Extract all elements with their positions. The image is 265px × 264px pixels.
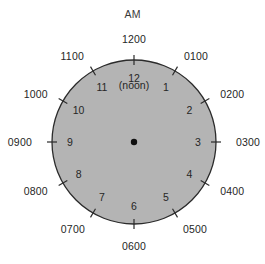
inner-hour-label-6: 6 [131, 200, 137, 212]
inner-hour-label-4: 4 [187, 168, 193, 180]
inner-hour-label-5: 5 [163, 191, 169, 203]
inner-hour-label-2: 2 [187, 104, 193, 116]
noon-annotation: (noon) [119, 79, 149, 91]
military-time-label-0800: 0800 [24, 185, 48, 197]
military-time-label-1000: 1000 [24, 88, 48, 100]
clock-dial-svg: 121234567891011 120001000200030004000500… [0, 0, 265, 264]
military-time-label-0300: 0300 [236, 136, 260, 148]
military-time-label-1100: 1100 [61, 50, 84, 62]
inner-hour-label-11: 11 [97, 81, 108, 93]
military-time-label-0100: 0100 [184, 50, 208, 62]
military-time-label-0500: 0500 [183, 223, 207, 235]
military-time-label-0600: 0600 [122, 240, 146, 252]
inner-hour-label-8: 8 [76, 168, 82, 180]
military-time-label-0200: 0200 [220, 88, 244, 100]
military-time-label-0900: 0900 [8, 136, 32, 148]
military-time-label-1200: 1200 [122, 33, 146, 45]
inner-hour-label-7: 7 [99, 191, 105, 203]
inner-hour-label-3: 3 [195, 136, 201, 148]
military-time-label-0700: 0700 [61, 223, 85, 235]
military-time-clock-figure: AM 121234567891011 120001000200030004000… [0, 0, 265, 264]
military-time-label-0400: 0400 [220, 185, 244, 197]
inner-hour-label-10: 10 [73, 104, 85, 116]
clock-center-dot [131, 139, 137, 145]
inner-hour-label-9: 9 [67, 136, 73, 148]
inner-hour-label-1: 1 [163, 81, 169, 93]
